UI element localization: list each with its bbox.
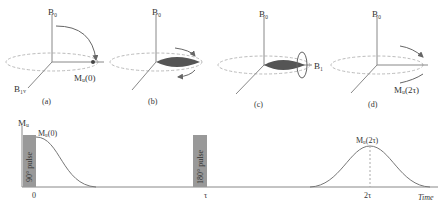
caption: (c) [254,100,263,109]
echo-label: Mᵤ(2τ) [356,136,379,145]
tick-2tau: 2τ [364,191,372,200]
caption: (a) [42,97,51,106]
vector-label: Mᵤ(0) [74,73,95,83]
echo-timeline: Mᵤ Mᵤ(0) Mᵤ(2τ) 90° pulse 180° pulse 0 τ… [18,118,438,202]
caption: (b) [148,97,158,106]
pulse-180-label: 180° pulse [196,149,205,184]
fid-curve [36,137,96,187]
rotation-arrow-icon [56,26,96,60]
panel-a: B₀ Mᵤ(0) B₁ᵥ (a) [6,7,104,106]
vector-label: Mᵤ(2τ) [394,85,419,95]
x-axis-label: Time [418,193,434,202]
vector-label: B₁ [314,61,323,71]
dephasing-fan-icon [264,60,305,70]
axis-label: B₀ [152,7,161,17]
axis-label: B₀ [372,9,381,19]
axis-label: B₀ [48,7,57,17]
tick-tau: τ [204,191,208,200]
caption: (d) [368,100,378,109]
tick-0: 0 [32,191,36,200]
panel-b: B₀ (b) [110,7,202,106]
axis-label: B₀ [259,9,268,19]
pulse-90-label: 90° pulse [25,151,34,182]
panel-c: B₀ B₁ (c) [218,9,323,109]
extra-label: B₁ᵥ [14,84,26,94]
y-axis-label: Mᵤ [18,118,29,128]
panel-d: B₀ Mᵤ(2τ) (d) [331,9,428,109]
start-label: Mᵤ(0) [38,129,57,138]
spin-echo-diagram: B₀ Mᵤ(0) B₁ᵥ (a) B₀ (b) B₀ B₁ (c) B₀ Mᵤ( [0,0,448,211]
dephasing-fan-icon [156,57,200,67]
